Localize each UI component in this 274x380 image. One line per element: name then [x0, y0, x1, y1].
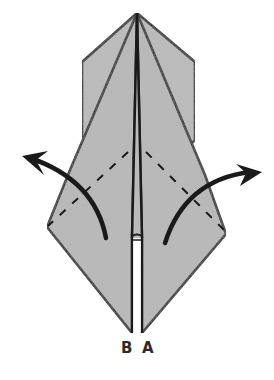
point-label-a: A [142, 339, 154, 357]
point-label-b: B [121, 339, 132, 357]
origami-diagram: B A [0, 0, 274, 380]
origami-figure [0, 0, 274, 380]
